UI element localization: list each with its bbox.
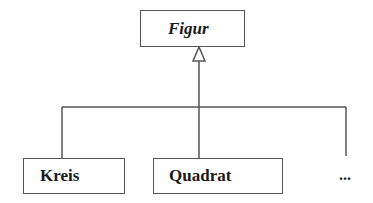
class-kreis: Kreis (23, 158, 125, 194)
more-classes-ellipsis: ... (339, 166, 351, 184)
class-quadrat-label: Quadrat (169, 166, 231, 186)
class-kreis-label: Kreis (40, 166, 79, 186)
class-figur-label: Figur (168, 19, 209, 39)
generalization-arrow-icon (193, 47, 205, 61)
class-quadrat: Quadrat (153, 158, 283, 194)
class-figur: Figur (140, 10, 245, 47)
